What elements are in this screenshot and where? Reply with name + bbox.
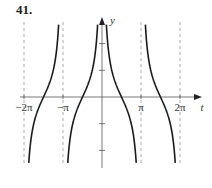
x-axis-label: t <box>200 101 204 113</box>
y-axis-arrow <box>99 17 105 25</box>
curve-branch-3 <box>106 25 136 163</box>
x-tick-label: π <box>138 101 144 113</box>
axes <box>20 17 202 168</box>
curve-branch-2 <box>68 25 98 163</box>
curve-branch-4 <box>145 25 175 163</box>
x-tick-label: 2π <box>174 101 186 113</box>
chart: −2π−ππ2πty <box>0 0 212 188</box>
x-tick-label: −2π <box>15 101 33 113</box>
x-axis-arrow <box>194 94 202 100</box>
curve-branch-1 <box>29 25 59 163</box>
x-tick-label: −π <box>57 101 69 113</box>
y-axis-label: y <box>109 14 115 26</box>
